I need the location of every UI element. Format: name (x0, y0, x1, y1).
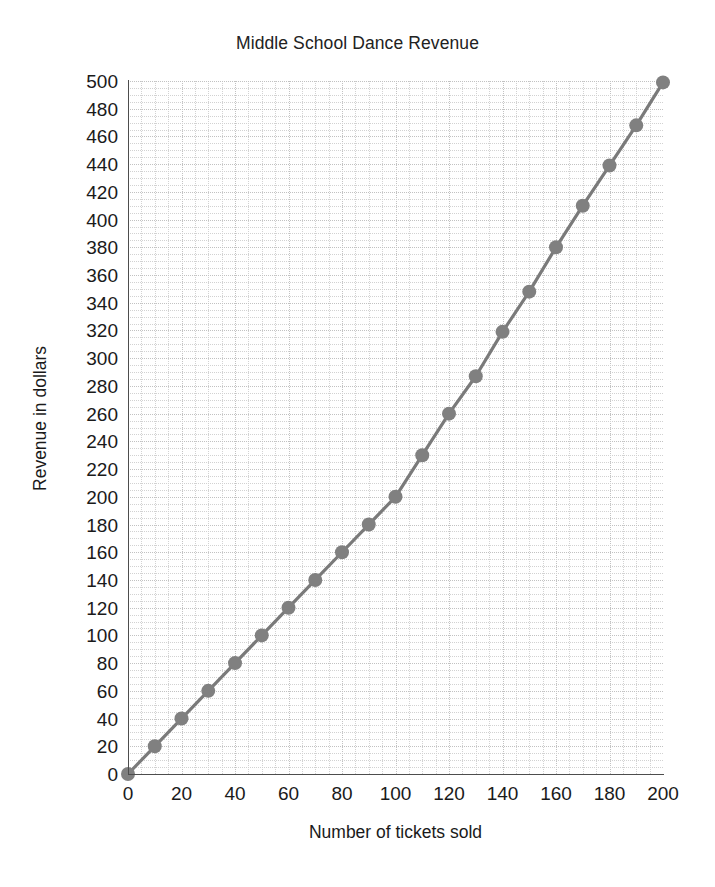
x-tick-label: 100 (380, 784, 412, 803)
data-point-marker (362, 518, 376, 532)
series-line (128, 82, 663, 774)
y-tick-label: 140 (86, 570, 118, 589)
data-point-marker (442, 407, 456, 421)
data-point-marker (656, 75, 670, 89)
x-tick-label: 200 (647, 784, 679, 803)
y-tick-label: 0 (107, 765, 118, 784)
y-tick-label: 20 (97, 737, 118, 756)
y-axis-title: Revenue in dollars (30, 319, 51, 519)
x-tick-label: 0 (123, 784, 134, 803)
y-tick-label: 220 (86, 460, 118, 479)
x-tick-label: 160 (540, 784, 572, 803)
x-tick-label: 20 (171, 784, 192, 803)
y-axis-tick-labels: 0204060801001201401601802002202402602803… (0, 81, 118, 774)
x-tick-label: 120 (433, 784, 465, 803)
y-tick-label: 340 (86, 293, 118, 312)
y-tick-label: 500 (86, 72, 118, 91)
x-tick-label: 80 (331, 784, 352, 803)
data-point-marker (496, 325, 510, 339)
data-point-marker (228, 656, 242, 670)
data-point-marker (576, 199, 590, 213)
x-tick-label: 180 (594, 784, 626, 803)
data-point-marker (522, 285, 536, 299)
data-point-marker (282, 601, 296, 615)
x-tick-label: 60 (278, 784, 299, 803)
x-axis-line (128, 774, 664, 775)
data-point-marker (201, 684, 215, 698)
data-point-marker (175, 712, 189, 726)
x-tick-label: 40 (224, 784, 245, 803)
data-series-layer (128, 81, 663, 774)
data-point-marker (389, 490, 403, 504)
y-tick-label: 300 (86, 349, 118, 368)
y-tick-label: 360 (86, 266, 118, 285)
y-tick-label: 100 (86, 626, 118, 645)
y-tick-label: 440 (86, 155, 118, 174)
data-point-marker (629, 118, 643, 132)
y-tick-label: 400 (86, 210, 118, 229)
y-tick-label: 180 (86, 515, 118, 534)
data-point-marker (469, 369, 483, 383)
chart-figure: Middle School Dance Revenue 020406080100… (0, 0, 715, 887)
data-point-marker (549, 240, 563, 254)
y-tick-label: 160 (86, 543, 118, 562)
chart-title: Middle School Dance Revenue (0, 33, 715, 54)
x-tick-label: 140 (487, 784, 519, 803)
y-tick-label: 380 (86, 238, 118, 257)
plot-area (128, 81, 663, 774)
y-tick-label: 260 (86, 404, 118, 423)
x-axis-tick-labels: 020406080100120140160180200 (128, 784, 663, 810)
y-tick-label: 40 (97, 709, 118, 728)
data-point-marker (335, 545, 349, 559)
y-tick-label: 60 (97, 681, 118, 700)
y-tick-label: 320 (86, 321, 118, 340)
data-point-marker (255, 628, 269, 642)
y-tick-label: 280 (86, 376, 118, 395)
y-tick-label: 120 (86, 598, 118, 617)
y-tick-label: 480 (86, 99, 118, 118)
data-point-marker (603, 159, 617, 173)
y-tick-label: 240 (86, 432, 118, 451)
y-axis-line (128, 80, 129, 775)
y-tick-label: 80 (97, 654, 118, 673)
y-tick-label: 420 (86, 182, 118, 201)
data-point-marker (308, 573, 322, 587)
y-tick-label: 200 (86, 487, 118, 506)
data-point-marker (415, 448, 429, 462)
data-point-marker (148, 739, 162, 753)
y-tick-label: 460 (86, 127, 118, 146)
x-axis-title: Number of tickets sold (128, 822, 663, 843)
